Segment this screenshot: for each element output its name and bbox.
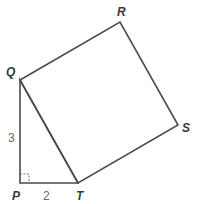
vertex-label-p: P (12, 189, 21, 203)
vertex-label-s: S (182, 121, 190, 135)
side-length-pq: 3 (8, 131, 15, 145)
right-angle-marker (20, 174, 29, 183)
geometry-diagram: Q R S P T 3 2 (0, 0, 198, 204)
side-length-pt: 2 (43, 189, 50, 203)
vertex-label-r: R (117, 5, 126, 19)
vertex-label-q: Q (6, 65, 16, 79)
square-qrst (20, 22, 178, 183)
vertex-label-t: T (76, 189, 85, 203)
triangle-pqt (20, 80, 78, 183)
